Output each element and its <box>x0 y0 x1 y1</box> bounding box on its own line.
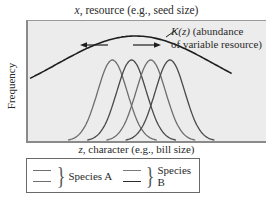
legend-item-species-b: } Species B <box>123 159 199 192</box>
legend: } Species A } Species B <box>26 158 200 193</box>
legend-label-species-b: Species B <box>157 164 199 188</box>
species-a-curve-3 <box>106 60 195 140</box>
frequency-label-text: Frequency <box>5 56 17 116</box>
brace-icon: } <box>146 163 155 189</box>
k-curve-label: K(z) (abundance of variable resource) <box>171 25 262 51</box>
resource-axis-label: x, resource (e.g., seed size) <box>0 4 273 16</box>
species-b-line-swatch <box>123 166 142 186</box>
species-a-line-swatch <box>33 166 53 186</box>
right-arrow <box>133 42 161 48</box>
brace-icon: } <box>57 163 66 189</box>
resource-variable: x, <box>75 4 83 16</box>
k-label-line1: (abundance <box>190 25 243 37</box>
species-a-curve-1 <box>68 60 157 140</box>
species-b-curve-4 <box>126 60 215 140</box>
legend-item-species-a: } Species A <box>33 159 112 192</box>
species-curves <box>68 60 214 140</box>
k-label-line2: of variable resource) <box>171 38 262 51</box>
resource-description: resource (e.g., seed size) <box>83 4 199 16</box>
left-arrow <box>80 42 108 48</box>
k-symbol: K(z) <box>171 25 190 37</box>
frequency-axis-label: Frequency <box>3 80 19 96</box>
character-variable: z, <box>78 143 85 155</box>
species-b-curve-2 <box>87 60 176 140</box>
character-description: character (e.g., bill size) <box>86 143 195 155</box>
character-axis-label: z, character (e.g., bill size) <box>0 143 273 155</box>
legend-label-species-a: Species A <box>68 170 112 182</box>
